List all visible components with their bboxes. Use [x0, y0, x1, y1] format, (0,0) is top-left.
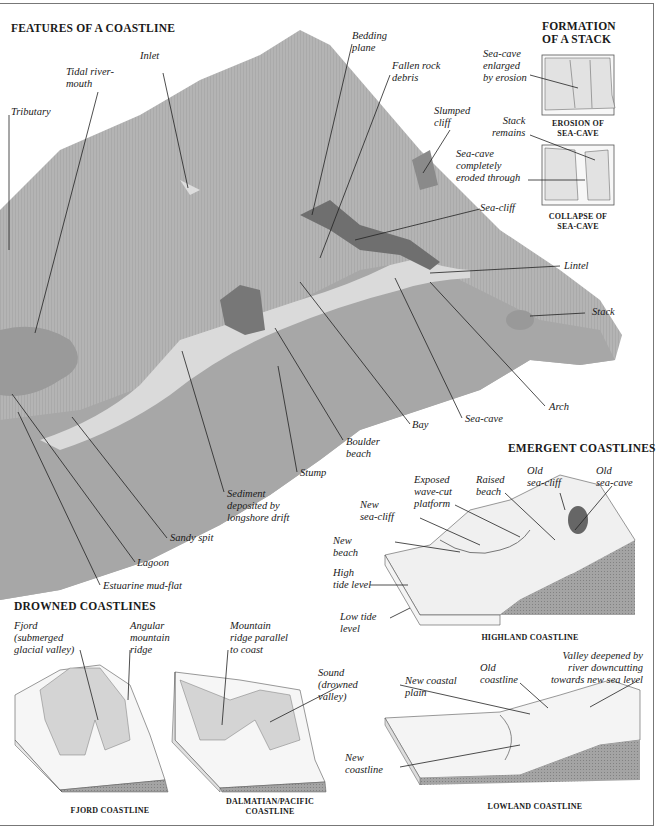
caption-lowland-coastline: LOWLAND COASTLINE — [460, 802, 610, 812]
caption-highland-coastline: HIGHLAND COASTLINE — [440, 633, 620, 643]
label-low-tide: Low tide level — [340, 611, 376, 635]
label-tributary: Tributary — [11, 106, 51, 118]
label-new-beach: New beach — [333, 535, 358, 559]
label-old-coastline: Old coastline — [480, 662, 518, 686]
drowned-title: DROWNED COASTLINES — [14, 600, 156, 613]
label-sea-cave-eroded-through: Sea-cave completely eroded through — [456, 148, 520, 184]
caption-collapse-of-sea-cave: COLLAPSE OF SEA-CAVE — [542, 212, 614, 232]
label-estuarine-mud-flat: Estuarine mud-flat — [103, 580, 182, 592]
label-inlet: Inlet — [140, 50, 159, 62]
fjord-coastline-art — [15, 665, 168, 792]
dalmatian-coastline-art — [172, 672, 326, 792]
label-new-coastal-plain: New coastal plain — [405, 675, 457, 699]
main-title: FEATURES OF A COASTLINE — [11, 22, 175, 35]
stack-formation-title: FORMATION OF A STACK — [542, 20, 616, 46]
label-old-sea-cave: Old sea-cave — [596, 465, 633, 489]
label-lintel: Lintel — [564, 260, 589, 272]
label-stack-remains: Stack remains — [492, 115, 525, 139]
label-angular-ridge: Angular mountain ridge — [130, 620, 170, 656]
label-slumped-cliff: Slumped cliff — [434, 105, 470, 129]
label-fjord: Fjord (submerged glacial valley) — [14, 620, 74, 656]
label-tidal-river-mouth: Tidal river- mouth — [66, 66, 114, 90]
label-sound: Sound (drowned valley) — [318, 667, 358, 703]
label-sea-cave-enlarged: Sea-cave enlarged by erosion — [483, 48, 527, 84]
label-bedding-plane: Bedding plane — [352, 30, 387, 54]
label-mountain-ridge: Mountain ridge parallel to coast — [230, 620, 288, 656]
label-new-sea-cliff: New sea-cliff — [360, 499, 394, 523]
label-sea-cave: Sea-cave — [465, 413, 503, 425]
label-arch: Arch — [549, 401, 569, 413]
label-sandy-spit: Sandy spit — [170, 532, 213, 544]
label-raised-beach: Raised beach — [476, 474, 505, 498]
label-lagoon: Lagoon — [137, 557, 169, 569]
label-sediment: Sediment deposited by longshore drift — [227, 488, 289, 524]
label-stump: Stump — [300, 467, 326, 479]
caption-fjord-coastline: FJORD COASTLINE — [50, 806, 170, 816]
caption-erosion-of-sea-cave: EROSION OF SEA-CAVE — [542, 119, 614, 139]
label-boulder-beach: Boulder beach — [346, 436, 380, 460]
label-valley-deepened: Valley deepened by river downcutting tow… — [535, 650, 643, 686]
label-stack: Stack — [592, 306, 615, 318]
label-high-tide: High tide level — [333, 567, 371, 591]
label-new-coastline: New coastline — [345, 752, 383, 776]
emergent-title: EMERGENT COASTLINES — [508, 442, 656, 455]
label-exposed-platform: Exposed wave-cut platform — [414, 474, 452, 510]
caption-dalmatian-coastline: DALMATIAN/PACIFIC COASTLINE — [210, 797, 330, 817]
label-fallen-rock-debris: Fallen rock debris — [392, 60, 440, 84]
label-bay: Bay — [412, 419, 428, 431]
label-old-sea-cliff: Old sea-cliff — [527, 465, 561, 489]
label-sea-cliff: Sea-cliff — [480, 202, 515, 214]
